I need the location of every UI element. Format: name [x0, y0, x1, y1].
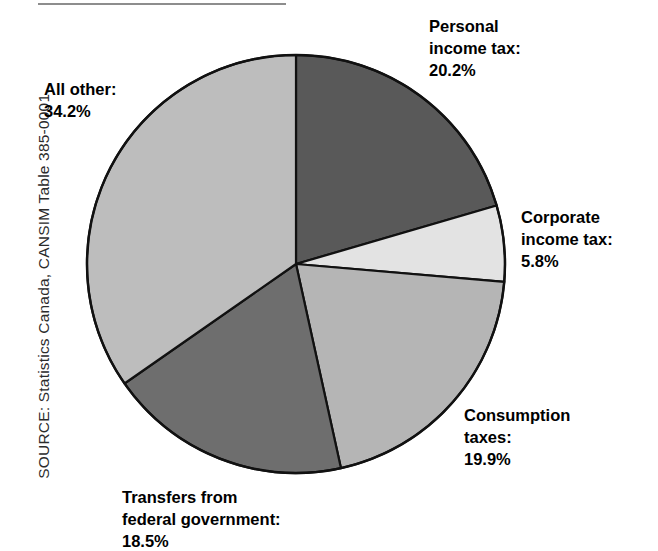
pie-chart-svg — [83, 51, 509, 477]
slice-label-consumption-taxes: Consumption taxes: 19.9% — [464, 405, 570, 470]
header-divider-rule — [38, 3, 286, 5]
pie-chart — [83, 51, 509, 477]
slice-label-personal-income-tax: Personal income tax: 20.2% — [429, 16, 521, 81]
slice-label-all-other: All other: 34.2% — [44, 79, 116, 123]
figure-canvas: SOURCE: Statistics Canada, CANSIM Table … — [0, 0, 658, 551]
pie-slice-group — [87, 55, 505, 473]
slice-label-corporate-income-tax: Corporate income tax: 5.8% — [521, 207, 613, 272]
slice-label-transfers-from-federal-government: Transfers from federal government: 18.5% — [122, 487, 281, 551]
